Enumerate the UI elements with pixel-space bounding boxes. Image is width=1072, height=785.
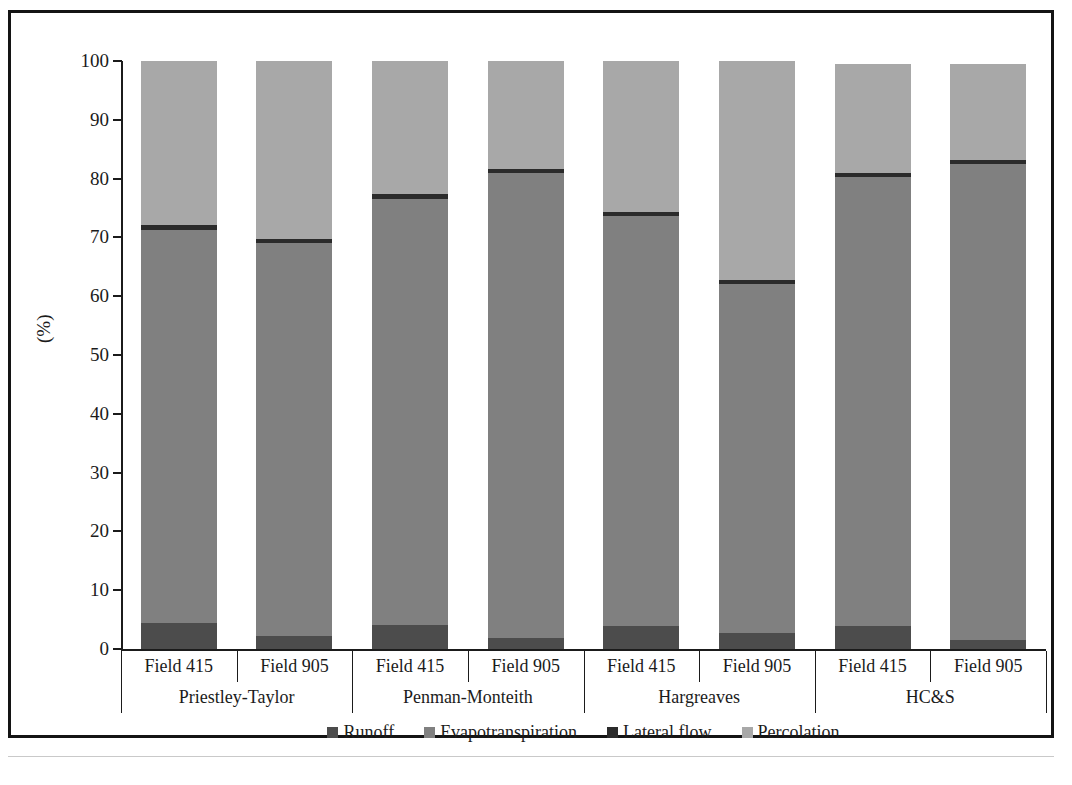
legend-item[interactable]: Lateral flow: [607, 722, 711, 743]
field-label: Field 905: [468, 651, 584, 682]
group-label: HC&S: [815, 682, 1046, 713]
y-axis-tick-label: 100: [23, 51, 109, 70]
stacked-bar[interactable]: [603, 61, 679, 649]
group-label: Penman-Monteith: [352, 682, 583, 713]
legend-item[interactable]: Percolation: [742, 722, 840, 743]
field-label: Field 905: [930, 651, 1046, 682]
bar-segment-percolation[interactable]: [372, 61, 448, 194]
stacked-bar[interactable]: [719, 61, 795, 649]
bar-segment-runoff[interactable]: [141, 623, 217, 649]
y-axis-tick-label: 60: [23, 286, 109, 305]
field-separator: [930, 651, 931, 682]
bar-segment-evapotranspiration[interactable]: [950, 164, 1026, 640]
y-axis-tick-label: 0: [23, 639, 109, 658]
y-axis-tick: [113, 354, 122, 356]
group-label: Hargreaves: [584, 682, 815, 713]
field-separator: [468, 651, 469, 682]
y-axis-tick-label: 90: [23, 110, 109, 129]
y-axis-tick: [113, 236, 122, 238]
y-axis-tick: [113, 60, 122, 62]
bar-segment-evapotranspiration[interactable]: [719, 284, 795, 633]
stacked-bar[interactable]: [835, 61, 911, 649]
bar-segment-runoff[interactable]: [488, 638, 564, 649]
field-label: Field 415: [815, 651, 931, 682]
bar-segment-evapotranspiration[interactable]: [372, 199, 448, 625]
field-label: Field 415: [352, 651, 468, 682]
field-label: Field 415: [584, 651, 700, 682]
stacked-bar[interactable]: [488, 61, 564, 649]
legend-item[interactable]: Runoff: [327, 722, 394, 743]
bar-segment-runoff[interactable]: [603, 626, 679, 649]
bar-segment-percolation[interactable]: [603, 61, 679, 212]
y-axis-tick-label: 10: [23, 580, 109, 599]
y-axis-tick: [113, 119, 122, 121]
legend-label: Evapotranspiration: [440, 722, 577, 743]
bar-segment-evapotranspiration[interactable]: [835, 177, 911, 626]
chart-legend: RunoffEvapotranspirationLateral flowPerc…: [121, 719, 1046, 745]
y-axis-tick: [113, 178, 122, 180]
group-separator: [121, 651, 122, 713]
y-axis-tick-label: 70: [23, 227, 109, 246]
y-axis-tick: [113, 648, 122, 650]
stacked-bar[interactable]: [256, 61, 332, 649]
bar-segment-percolation[interactable]: [719, 61, 795, 280]
bar-segment-percolation[interactable]: [950, 64, 1026, 160]
bar-segment-percolation[interactable]: [141, 61, 217, 225]
bar-segment-runoff[interactable]: [719, 633, 795, 649]
group-separator: [584, 651, 585, 713]
field-separator: [699, 651, 700, 682]
category-label-table: Field 415Field 905Field 415Field 905Fiel…: [121, 651, 1046, 713]
stacked-bar[interactable]: [950, 61, 1026, 649]
legend-label: Lateral flow: [623, 722, 711, 743]
group-separator: [815, 651, 816, 713]
legend-swatch-icon: [742, 727, 753, 738]
y-axis-title: (%): [33, 315, 55, 343]
bar-segment-percolation[interactable]: [256, 61, 332, 239]
field-label: Field 905: [699, 651, 815, 682]
bar-segment-runoff[interactable]: [950, 640, 1026, 649]
legend-swatch-icon: [327, 727, 338, 738]
legend-label: Runoff: [343, 722, 394, 743]
stacked-bar[interactable]: [372, 61, 448, 649]
y-axis-tick-label: 40: [23, 404, 109, 423]
y-axis-tick: [113, 413, 122, 415]
legend-swatch-icon: [424, 727, 435, 738]
y-axis-tick: [113, 295, 122, 297]
y-axis-tick-label: 50: [23, 345, 109, 364]
legend-swatch-icon: [607, 727, 618, 738]
y-axis-tick: [113, 589, 122, 591]
bar-segment-runoff[interactable]: [835, 626, 911, 649]
legend-label: Percolation: [758, 722, 840, 743]
y-axis-tick-labels: 0102030405060708090100: [11, 13, 109, 713]
bar-segment-evapotranspiration[interactable]: [488, 173, 564, 638]
bar-segment-evapotranspiration[interactable]: [603, 216, 679, 626]
bar-segment-runoff[interactable]: [372, 625, 448, 649]
field-label: Field 415: [121, 651, 237, 682]
group-separator: [1046, 651, 1047, 713]
y-axis-tick-label: 80: [23, 169, 109, 188]
bar-segment-evapotranspiration[interactable]: [141, 230, 217, 623]
plot-area: [121, 51, 1046, 649]
caption-separator-rule: [8, 756, 1054, 757]
y-axis-tick-label: 20: [23, 521, 109, 540]
y-axis-tick: [113, 472, 122, 474]
y-axis-tick: [113, 530, 122, 532]
field-label: Field 905: [237, 651, 353, 682]
figure-frame: 0102030405060708090100 (%) Field 415Fiel…: [8, 10, 1054, 738]
bar-segment-runoff[interactable]: [256, 636, 332, 649]
field-separator: [237, 651, 238, 682]
legend-item[interactable]: Evapotranspiration: [424, 722, 577, 743]
bar-segment-percolation[interactable]: [488, 61, 564, 169]
bar-segment-evapotranspiration[interactable]: [256, 243, 332, 636]
group-separator: [352, 651, 353, 713]
group-label: Priestley-Taylor: [121, 682, 352, 713]
stacked-bar[interactable]: [141, 61, 217, 649]
y-axis-tick-label: 30: [23, 463, 109, 482]
bar-segment-percolation[interactable]: [835, 64, 911, 173]
